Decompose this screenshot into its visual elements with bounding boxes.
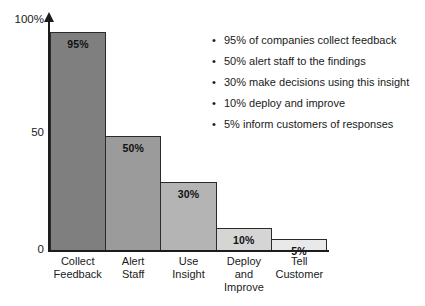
x-axis-category-line: Use xyxy=(161,255,216,268)
bullet-marker-icon: • xyxy=(212,118,224,131)
x-axis-category-line: Collect xyxy=(50,255,105,268)
insight-bullet-list: •95% of companies collect feedback•50% a… xyxy=(212,34,424,139)
x-axis-category-label: UseInsight xyxy=(161,255,216,294)
bar: 30% xyxy=(160,182,216,251)
x-axis-category-label: CollectFeedback xyxy=(50,255,105,294)
y-tick-label-0: 0 xyxy=(38,244,44,256)
x-axis-category-line: Feedback xyxy=(50,268,105,281)
x-axis-line xyxy=(48,250,329,252)
bar-value-label: 30% xyxy=(161,188,215,200)
x-axis-category-line: Deploy xyxy=(216,255,271,268)
bar-value-label: 50% xyxy=(106,142,160,154)
x-axis-category-label: DeployandImprove xyxy=(216,255,271,294)
bullet-list-item: •30% make decisions using this insight xyxy=(212,76,424,89)
bullet-list-item: •50% alert staff to the findings xyxy=(212,55,424,68)
y-tick-label-100: 100% xyxy=(15,14,44,26)
bullet-marker-icon: • xyxy=(212,55,224,68)
x-axis-category-line: Customer xyxy=(272,268,327,281)
x-axis-category-label: TellCustomer xyxy=(272,255,327,294)
bar: 10% xyxy=(216,228,272,251)
bullet-item-text: 30% make decisions using this insight xyxy=(224,76,409,89)
bullet-marker-icon: • xyxy=(212,34,224,47)
x-axis-category-line: Tell xyxy=(272,255,327,268)
bullet-item-text: 50% alert staff to the findings xyxy=(224,55,366,68)
x-axis-category-labels: CollectFeedbackAlertStaffUseInsightDeplo… xyxy=(50,255,327,294)
bar: 50% xyxy=(105,136,161,252)
x-axis-category-line: and xyxy=(216,268,271,281)
y-tick-label-50: 50 xyxy=(31,127,44,139)
bullet-list-item: •10% deploy and improve xyxy=(212,97,424,110)
x-axis-category-label: AlertStaff xyxy=(105,255,160,294)
x-axis-category-line: Insight xyxy=(161,268,216,281)
x-axis-category-line: Staff xyxy=(105,268,160,281)
bar-value-label: 10% xyxy=(217,234,271,246)
bar: 95% xyxy=(50,32,106,251)
bullet-marker-icon: • xyxy=(212,76,224,89)
bullet-marker-icon: • xyxy=(212,97,224,110)
bar-chart-figure: 100% 50 0 95%50%30%10%5% CollectFeedback… xyxy=(0,0,425,306)
bullet-list-item: •5% inform customers of responses xyxy=(212,118,424,131)
bullet-item-text: 10% deploy and improve xyxy=(224,97,345,110)
bullet-item-text: 95% of companies collect feedback xyxy=(224,34,396,47)
x-axis-category-line: Alert xyxy=(105,255,160,268)
bullet-item-text: 5% inform customers of responses xyxy=(224,118,393,131)
bar-value-label: 95% xyxy=(51,38,105,50)
bullet-list-item: •95% of companies collect feedback xyxy=(212,34,424,47)
x-axis-category-line: Improve xyxy=(216,281,271,294)
